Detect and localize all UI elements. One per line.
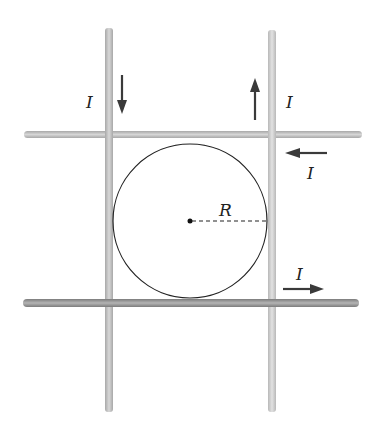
- right-vertical-wire: [268, 30, 276, 412]
- left-vertical-wire: [105, 28, 113, 412]
- center-dot: [188, 219, 193, 224]
- diagram-canvas: I I I I R: [0, 0, 383, 426]
- label-current-right-vertical: I: [285, 92, 293, 112]
- label-current-top-horizontal: I: [306, 163, 314, 183]
- arrow-right-icon: [283, 284, 324, 294]
- arrow-up-icon: [250, 78, 260, 120]
- arrow-left-icon: [285, 148, 327, 158]
- label-radius: R: [218, 200, 232, 220]
- bottom-horizontal-wire: [23, 299, 359, 307]
- arrow-down-icon: [117, 75, 127, 114]
- top-horizontal-wire: [24, 131, 362, 138]
- label-current-left: I: [85, 92, 93, 112]
- label-current-bottom-horizontal: I: [295, 264, 303, 284]
